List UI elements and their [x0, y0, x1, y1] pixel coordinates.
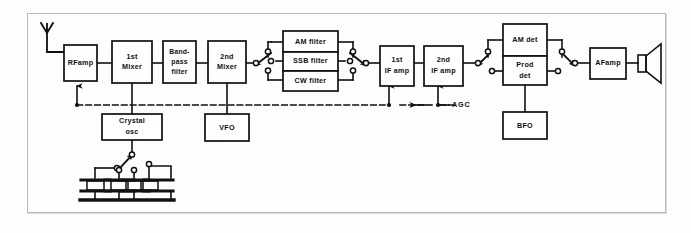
label-second-mixer-1: 2nd — [220, 52, 234, 61]
label-first-mixer-2: Mixer — [122, 62, 142, 71]
label-second-if-1: 2nd — [437, 55, 451, 64]
crystal-switch-blade — [120, 156, 131, 168]
detector-output-switch-blade — [562, 53, 573, 64]
label-second-if-2: IF amp — [431, 66, 456, 75]
antenna-symbol — [41, 23, 64, 52]
wire-xtal4-bus — [149, 166, 171, 178]
label-crystal-osc-2: osc — [125, 127, 138, 136]
label-am-det: AM det — [512, 35, 538, 44]
label-cw-filter: CW filter — [295, 76, 327, 85]
label-prod-det-1: Prod — [516, 60, 533, 69]
block-diagram-svg: RFamp 1st Mixer Band- pass filter 2nd Mi… — [0, 0, 691, 233]
label-rf-amp: RFamp — [68, 58, 94, 67]
label-agc: AGC — [452, 100, 471, 109]
label-bandpass-2: pass — [171, 58, 188, 66]
label-first-mixer-1: 1st — [126, 52, 137, 61]
label-second-mixer-2: Mixer — [217, 62, 237, 71]
diagram-canvas: RFamp 1st Mixer Band- pass filter 2nd Mi… — [0, 0, 691, 233]
label-af-amp: AFamp — [595, 58, 621, 67]
speaker-symbol — [638, 44, 661, 83]
label-bfo: BFO — [517, 121, 533, 130]
label-crystal-osc-1: Crystal — [119, 116, 145, 125]
label-first-if-2: IF amp — [385, 66, 410, 75]
label-bandpass-3: filter — [171, 68, 187, 75]
label-prod-det-2: det — [519, 71, 531, 80]
screenshot-root: RFamp 1st Mixer Band- pass filter 2nd Mi… — [0, 0, 691, 233]
label-first-if-1: 1st — [391, 55, 402, 64]
label-vfo: VFO — [219, 123, 235, 132]
label-am-filter: AM filter — [295, 37, 326, 46]
label-bandpass-1: Band- — [169, 48, 190, 55]
crystal-symbol — [141, 180, 173, 200]
label-ssb-filter: SSB filter — [293, 56, 328, 65]
